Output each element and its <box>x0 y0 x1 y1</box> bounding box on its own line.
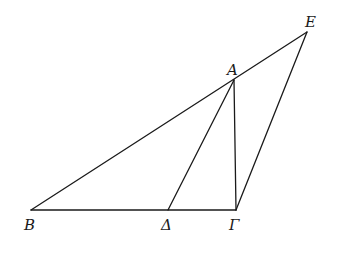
segment-GammaE <box>236 32 307 210</box>
label-A: A <box>225 61 238 79</box>
segment-ADelta <box>168 80 234 210</box>
label-B: B <box>23 216 35 234</box>
label-Gamma: Γ <box>228 216 240 234</box>
geometry-diagram: A B Δ Γ E <box>0 0 338 255</box>
segment-AGamma <box>234 80 236 210</box>
label-Delta: Δ <box>160 216 172 234</box>
segment-BE <box>31 32 307 210</box>
label-E: E <box>304 13 316 31</box>
